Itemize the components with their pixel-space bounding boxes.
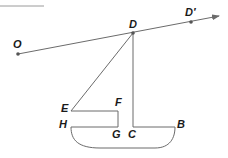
- label-f: F: [115, 96, 122, 108]
- ray-od: [18, 16, 219, 54]
- hull-curve: [71, 127, 175, 148]
- sailboat-dilation-diagram: O D D′ E F H G C B: [0, 0, 228, 158]
- label-c: C: [128, 128, 137, 140]
- label-b: B: [177, 118, 185, 130]
- label-e: E: [61, 102, 69, 114]
- point-d: [131, 31, 135, 35]
- label-d-prime: D′: [185, 6, 197, 18]
- label-d: D: [129, 18, 137, 30]
- label-h: H: [59, 118, 68, 130]
- sail-edge-de: [71, 33, 133, 111]
- point-o: [16, 52, 20, 56]
- point-d-prime: [189, 20, 193, 24]
- label-o: O: [13, 38, 22, 50]
- label-g: G: [112, 128, 121, 140]
